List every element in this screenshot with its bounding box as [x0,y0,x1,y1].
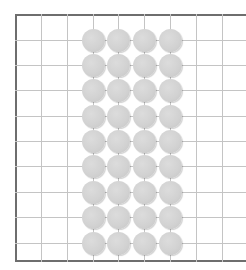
grid-line-horizontal [15,90,246,91]
stone[interactable] [107,130,130,153]
stone[interactable] [82,130,105,153]
stone[interactable] [107,105,130,128]
stone[interactable] [133,54,156,77]
stone[interactable] [133,181,156,204]
stone[interactable] [159,130,182,153]
stone[interactable] [133,206,156,229]
grid-line-horizontal [15,141,246,142]
stone[interactable] [133,130,156,153]
grid-line-horizontal [15,192,246,193]
stone[interactable] [82,79,105,102]
stone[interactable] [82,105,105,128]
stone[interactable] [133,79,156,102]
stone[interactable] [159,206,182,229]
game-board[interactable] [15,14,246,262]
stone[interactable] [159,79,182,102]
stone[interactable] [107,206,130,229]
stone[interactable] [133,29,156,52]
stone[interactable] [82,232,105,255]
grid-line-vertical [196,14,197,262]
grid-line-vertical [41,14,42,262]
stone[interactable] [82,206,105,229]
stone[interactable] [107,79,130,102]
stone[interactable] [82,54,105,77]
grid-line-horizontal [15,166,246,167]
stone[interactable] [159,232,182,255]
grid-line-vertical [67,14,68,262]
stone[interactable] [107,232,130,255]
grid-line-horizontal [15,65,246,66]
grid-line-horizontal [15,40,246,41]
grid-line-vertical [222,14,223,262]
stone[interactable] [82,181,105,204]
stone[interactable] [159,29,182,52]
stone[interactable] [133,155,156,178]
stone[interactable] [159,155,182,178]
stone[interactable] [107,155,130,178]
stone[interactable] [107,54,130,77]
stone[interactable] [133,105,156,128]
stone[interactable] [159,105,182,128]
stone[interactable] [159,54,182,77]
stone[interactable] [133,232,156,255]
grid-line-horizontal [15,217,246,218]
stone[interactable] [159,181,182,204]
stone[interactable] [107,181,130,204]
grid-line-horizontal [15,243,246,244]
stone[interactable] [82,155,105,178]
grid-line-horizontal [15,116,246,117]
stone[interactable] [82,29,105,52]
stone[interactable] [107,29,130,52]
